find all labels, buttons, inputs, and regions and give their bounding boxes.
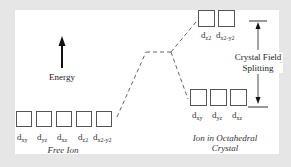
orbital-label-dxy: dxy [17, 132, 28, 145]
energy-label: Energy [46, 72, 78, 82]
octahedral-caption-line2: Crystal [185, 143, 265, 153]
orbital-label-dz2: dz2 [78, 132, 88, 145]
octahedral-caption-line1: Ion in Octahedral [185, 133, 265, 143]
orbital-box-dxy [16, 111, 32, 127]
orbital-label-upper-dx2y2: dx2-y2 [216, 30, 235, 43]
orbital-box-dz2 [76, 111, 92, 127]
orbital-label-lower-dyz: dyz [212, 110, 222, 123]
orbital-label-lower-dxy: dxy [192, 110, 203, 123]
orbital-box-lower-dxy [190, 89, 207, 106]
orbital-box-dx2y2 [96, 111, 112, 127]
dashed-correlation-lines [117, 22, 196, 117]
free-ion-caption: Free Ion [38, 145, 88, 155]
orbital-label-dxz: dxz [57, 132, 67, 145]
orbital-box-upper-dx2y2 [218, 10, 235, 27]
orbital-label-dyz: dyz [37, 132, 47, 145]
orbital-box-lower-dyz [210, 89, 227, 106]
orbital-label-lower-dxz: dxz [232, 110, 242, 123]
orbital-box-dyz [36, 111, 52, 127]
orbital-box-dxz [56, 111, 72, 127]
orbital-box-upper-dz2 [198, 10, 215, 27]
orbital-label-upper-dz2: dz2 [201, 30, 211, 43]
orbital-box-lower-dxz [230, 89, 247, 106]
energy-arrow-icon [59, 36, 66, 68]
splitting-label-line2: Splitting [233, 63, 283, 73]
orbital-label-dx2y2: dx2-y2 [93, 132, 112, 145]
splitting-label-line1: Crystal Field [233, 52, 283, 62]
